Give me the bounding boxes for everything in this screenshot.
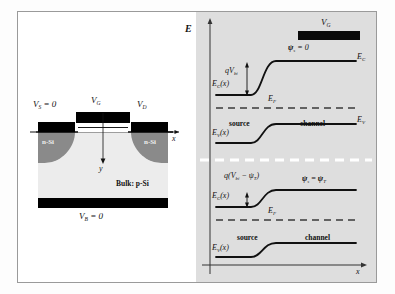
ev-right-label-upper: EV xyxy=(357,116,365,124)
built-in-barrier-label-upper: qVbi xyxy=(225,67,238,75)
ec-right-label-upper: EC xyxy=(357,53,365,61)
surface-potential-upper: ψs = 0 xyxy=(288,44,309,52)
mosfet-cross-section-drawing xyxy=(18,12,188,282)
gate-voltage-label: VG xyxy=(91,96,101,105)
x-axis-label: x xyxy=(172,135,176,143)
surface-potential-lower: ψs = ψT xyxy=(302,175,326,183)
source-voltage-label: VS = 0 xyxy=(33,100,56,109)
drain-nsi-label: n-Si xyxy=(144,139,156,146)
source-nsi-label: n-Si xyxy=(42,139,54,146)
valence-band-lower xyxy=(216,243,356,257)
barrier-arrow-up-lower xyxy=(245,192,249,198)
energy-band-diagram-panel: VG ψs = 0 EC(x) qVbi EF EC EV source cha… xyxy=(196,12,376,282)
ev-of-x-label-lower: EV(x) xyxy=(212,244,229,252)
channel-region-label-upper: channel xyxy=(300,120,325,128)
position-axis-label: x xyxy=(356,268,360,276)
ec-of-x-label-lower: EC(x) xyxy=(212,192,229,200)
body-voltage-label: VB = 0 xyxy=(79,212,103,221)
mosfet-cross-section-panel: VS = 0 VG VD VB = 0 n-Si n-Si Bulk: p-Si… xyxy=(18,12,188,282)
energy-axis-arrowhead xyxy=(208,18,213,24)
source-region-label-lower: source xyxy=(237,234,258,242)
body-metal-contact xyxy=(38,198,168,208)
barrier-arrow-up-upper xyxy=(245,62,249,68)
bulk-psi-label: Bulk: p-Si xyxy=(116,180,149,188)
source-metal-contact xyxy=(38,122,75,132)
threshold-barrier-label-lower: q(Vbi − ψT) xyxy=(224,172,259,180)
energy-band-drawing xyxy=(196,12,376,282)
fermi-level-label-upper: EF xyxy=(268,95,276,103)
conduction-band-lower xyxy=(216,190,356,207)
gate-voltage-label-band: VG xyxy=(321,18,331,27)
position-axis-arrowhead xyxy=(361,263,367,268)
y-axis-label: y xyxy=(99,165,103,173)
gate-block-upper xyxy=(298,31,360,40)
drain-voltage-label: VD xyxy=(137,100,147,109)
ec-of-x-label-upper: EC(x) xyxy=(212,80,229,88)
drain-metal-contact xyxy=(131,122,168,132)
source-region-label-upper: source xyxy=(229,120,250,128)
fermi-level-label-lower: EF xyxy=(268,207,276,215)
channel-region-label-lower: channel xyxy=(305,234,330,242)
ev-of-x-label-upper: EV(x) xyxy=(212,129,229,137)
energy-axis-label: E xyxy=(185,24,192,34)
figure-container: VS = 0 VG VD VB = 0 n-Si n-Si Bulk: p-Si… xyxy=(0,0,395,294)
